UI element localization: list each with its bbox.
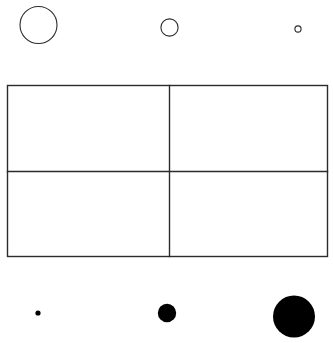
figure-svg: [0, 0, 333, 343]
medium-filled-dot: [158, 304, 176, 322]
large-filled-dot: [273, 296, 315, 338]
small-filled-dot: [35, 310, 40, 315]
figure-canvas: [0, 0, 333, 343]
